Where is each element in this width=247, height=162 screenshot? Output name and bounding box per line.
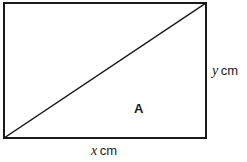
geometry-figure: xcm ycm A xyxy=(0,0,247,162)
figure-canvas xyxy=(0,0,247,162)
width-unit: cm xyxy=(100,143,117,158)
height-unit: cm xyxy=(221,63,238,78)
height-symbol: y xyxy=(212,63,218,78)
width-symbol: x xyxy=(91,143,97,158)
width-label: xcm xyxy=(91,144,117,158)
height-label: ycm xyxy=(212,64,238,78)
region-label: A xyxy=(134,102,143,115)
